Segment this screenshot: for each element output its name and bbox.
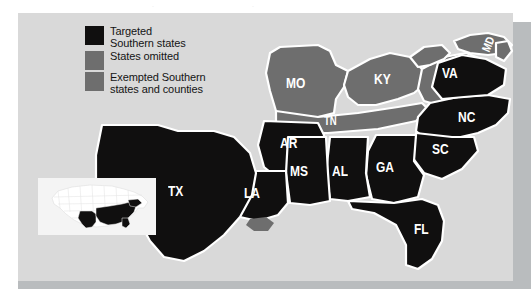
state-shape-mo	[266, 45, 348, 119]
page-top-sliver: . .	[0, 0, 531, 13]
map-figure-panel: MO KY VA MD NC TN AR SC GA AL MS LA TX F…	[18, 13, 513, 281]
legend-item-exempted: Exempted Southern states and counties	[85, 72, 225, 95]
figure-root: . .	[0, 0, 531, 289]
state-label-ga: GA	[376, 159, 394, 174]
legend-label-omitted: States omitted	[110, 51, 179, 63]
state-label-al: AL	[332, 163, 348, 178]
legend-swatch-targeted-icon	[85, 26, 104, 45]
legend-swatch-exempted-icon	[85, 72, 104, 91]
state-label-fl: FL	[414, 221, 429, 236]
state-label-mo: MO	[286, 75, 305, 90]
ghost-text-right: .	[252, 1, 254, 8]
legend-label-targeted-line1: Targeted	[110, 26, 186, 38]
state-label-la: LA	[244, 185, 260, 200]
state-label-tn: TN	[324, 115, 337, 127]
legend-item-omitted: States omitted	[85, 51, 225, 70]
exempted-county-blob	[246, 217, 274, 231]
state-label-va: VA	[442, 65, 458, 80]
panel-shadow-bottom	[18, 281, 531, 289]
state-shape-fl	[348, 199, 444, 269]
legend-label-targeted: Targeted Southern states	[110, 26, 186, 49]
legend-swatch-omitted-icon	[85, 51, 104, 70]
legend-label-omitted-line1: States omitted	[110, 51, 179, 63]
panel-shadow-right	[513, 22, 531, 289]
state-label-ky: KY	[374, 71, 391, 86]
state-shape-ga	[366, 135, 424, 203]
state-label-tx: TX	[168, 183, 183, 198]
state-label-sc: SC	[432, 141, 449, 156]
state-label-nc: NC	[458, 109, 475, 124]
map-legend: Targeted Southern states States omitted …	[85, 26, 225, 97]
state-label-ar: AR	[280, 135, 297, 150]
legend-label-exempted-line2: states and counties	[110, 84, 206, 96]
ghost-text-left: .	[152, 1, 154, 8]
legend-label-exempted: Exempted Southern states and counties	[110, 72, 206, 95]
inset-locator-map	[38, 178, 156, 235]
legend-label-targeted-line2: Southern states	[110, 38, 186, 50]
state-shape-delmarva	[496, 41, 512, 61]
legend-item-targeted: Targeted Southern states	[85, 26, 225, 49]
state-label-ms: MS	[290, 163, 308, 178]
inset-map-svg	[38, 178, 156, 235]
